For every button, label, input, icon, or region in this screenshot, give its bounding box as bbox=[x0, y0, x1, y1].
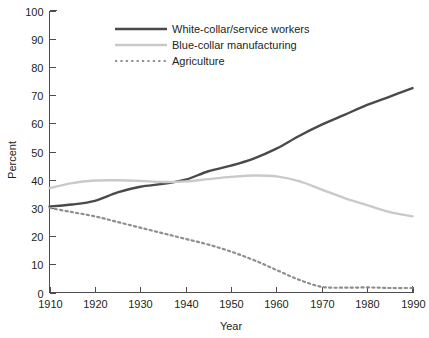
axis-group bbox=[50, 11, 414, 294]
series-line-3 bbox=[50, 208, 413, 288]
x-axis-title: Year bbox=[220, 320, 243, 332]
x-tick-labels: 191019201930194019501960197019801990 bbox=[38, 298, 425, 310]
legend-label-3: Agriculture bbox=[172, 55, 225, 67]
series-group bbox=[50, 88, 413, 288]
y-tick-label: 50 bbox=[31, 147, 43, 159]
series-line-2 bbox=[50, 175, 413, 216]
y-tick-label: 30 bbox=[31, 203, 43, 215]
x-tick-label: 1930 bbox=[128, 298, 152, 310]
y-tick-labels: 0102030405060708090100 bbox=[25, 6, 43, 300]
legend-label-2: Blue-collar manufacturing bbox=[172, 39, 297, 51]
x-tick-label: 1940 bbox=[174, 298, 198, 310]
y-tick-label: 60 bbox=[31, 118, 43, 130]
y-tick-label: 90 bbox=[31, 34, 43, 46]
x-tick-label: 1990 bbox=[401, 298, 425, 310]
y-tick-marks bbox=[50, 12, 56, 294]
chart-legend: White-collar/service workersBlue-collar … bbox=[115, 23, 310, 67]
chart-canvas: 0102030405060708090100 19101920193019401… bbox=[0, 0, 429, 338]
series-line-1 bbox=[50, 88, 413, 206]
y-tick-label: 100 bbox=[25, 6, 43, 18]
x-tick-label: 1970 bbox=[310, 298, 334, 310]
x-tick-label: 1950 bbox=[219, 298, 243, 310]
x-tick-label: 1980 bbox=[355, 298, 379, 310]
axis-lines bbox=[50, 11, 413, 293]
y-tick-label: 10 bbox=[31, 259, 43, 271]
x-tick-label: 1920 bbox=[83, 298, 107, 310]
y-tick-label: 80 bbox=[31, 62, 43, 74]
line-chart: 0102030405060708090100 19101920193019401… bbox=[0, 0, 429, 338]
y-axis-title: Percent bbox=[6, 141, 18, 179]
y-tick-label: 70 bbox=[31, 90, 43, 102]
y-tick-label: 20 bbox=[31, 231, 43, 243]
y-tick-label: 40 bbox=[31, 175, 43, 187]
legend-label-1: White-collar/service workers bbox=[172, 23, 310, 35]
x-tick-label: 1910 bbox=[38, 298, 62, 310]
x-tick-label: 1960 bbox=[264, 298, 288, 310]
